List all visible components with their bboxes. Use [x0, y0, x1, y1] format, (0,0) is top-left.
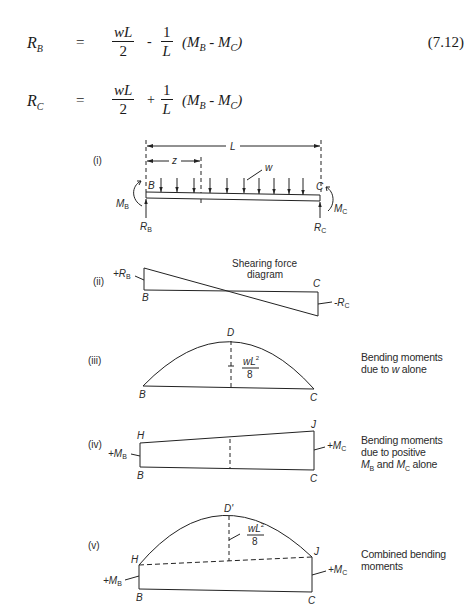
- beam-end-c: C: [316, 181, 324, 192]
- combined-right-value: +MC: [328, 564, 347, 576]
- trapezoid-end-c: C: [310, 473, 318, 484]
- peak-label-d: D: [227, 327, 234, 338]
- combined-end-b: B: [136, 592, 143, 603]
- bm-end-b: B: [139, 389, 146, 400]
- panel-iii-bending-moment-w: (iii) D wL2 8 B C: [88, 327, 318, 403]
- rc-leader: [318, 302, 332, 304]
- trapezoid-right-value: +MC: [327, 440, 346, 452]
- trapezoid-left-value: +MB: [108, 448, 127, 460]
- shear-end-c: C: [313, 278, 321, 289]
- left-reaction-label: RB: [140, 221, 152, 233]
- shear-right-value: -RC: [334, 297, 350, 309]
- closing-dashed-line-hj: [139, 557, 312, 565]
- load-label: w: [265, 162, 273, 173]
- note-combined-bm: Combined bending moments: [361, 548, 446, 572]
- combined-peak-denominator: 8: [252, 536, 258, 547]
- trapezoid-bm: [140, 431, 314, 470]
- combined-baseline: [139, 589, 312, 592]
- combined-mb-leader: [125, 576, 139, 580]
- shear-title-line1: Shearing force: [232, 258, 297, 269]
- combined-bm-curve: [139, 515, 312, 565]
- beam: [146, 192, 320, 201]
- left-moment-label: MB: [116, 198, 129, 210]
- trapezoid-end-b: B: [137, 470, 144, 481]
- right-moment-label: MC: [334, 203, 347, 215]
- combined-top-h: H: [131, 554, 139, 565]
- peak-value-denominator: 8: [247, 369, 253, 380]
- shear-title-line2: diagram: [247, 269, 283, 280]
- trapezoid-top-h: H: [137, 430, 145, 441]
- combined-end-c: C: [308, 595, 316, 606]
- combined-peak-label: D': [224, 503, 234, 514]
- panel-v-roman: (v): [88, 540, 100, 551]
- panel-i-roman: (i): [93, 155, 102, 166]
- combined-mc-leader: [312, 571, 326, 575]
- beam-diagram: (i) L z w B C: [0, 0, 473, 616]
- panel-iv-roman: (iv): [88, 439, 102, 450]
- note-bm-due-to-w: Bending moments due to w alone: [361, 351, 443, 375]
- shear-end-b: B: [142, 292, 149, 303]
- mb-leader: [131, 454, 140, 456]
- combined-left-value: +MB: [103, 575, 122, 587]
- shear-left-value: +RB: [113, 268, 131, 280]
- peak-value-numerator: wL2: [243, 355, 260, 367]
- panel-iii-roman: (iii): [88, 355, 101, 366]
- rb-leader: [135, 276, 144, 280]
- panel-v-combined-bending-moment: (v) D' wL2 8 +MB +MC H J B C: [88, 503, 347, 606]
- panel-ii-roman: (ii): [93, 276, 104, 287]
- panel-i-loaded-beam: (i) L z w B C: [93, 140, 347, 234]
- panel-ii-shear-force-diagram: (ii) Shearing force diagram +RB -RC B C: [93, 258, 350, 316]
- combined-peak-leader: [229, 534, 240, 540]
- left-moment-arc: [134, 181, 142, 206]
- panel-iv-bending-moment-end-moments: (iv) +MB +MC H J B C: [88, 419, 346, 484]
- trapezoid-top-j: J: [310, 419, 317, 430]
- span-label: L: [230, 141, 236, 152]
- load-leader-line: [247, 170, 262, 180]
- bm-baseline: [143, 386, 314, 389]
- combined-top-j: J: [313, 546, 320, 557]
- beam-end-b: B: [148, 180, 155, 191]
- right-reaction-label: RC: [314, 222, 326, 234]
- mc-leader: [314, 447, 325, 450]
- note-bm-due-to-end-moments: Bending moments due to positive MB and M…: [361, 434, 443, 475]
- combined-peak-numerator: wL2: [248, 522, 265, 534]
- z-label: z: [171, 155, 177, 166]
- parabolic-bm-curve: [143, 342, 314, 389]
- bm-end-c: C: [310, 392, 318, 403]
